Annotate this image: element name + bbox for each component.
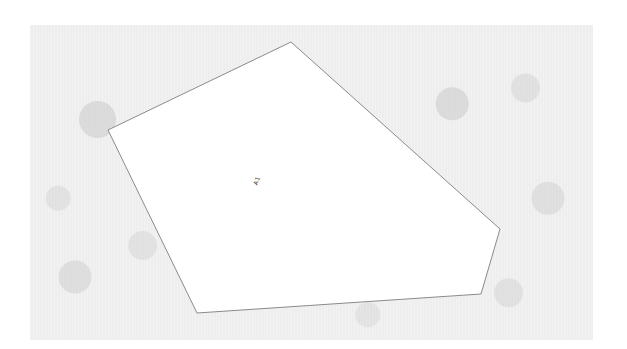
polygon-canvas <box>0 0 627 349</box>
region-polygon[interactable] <box>108 42 500 313</box>
